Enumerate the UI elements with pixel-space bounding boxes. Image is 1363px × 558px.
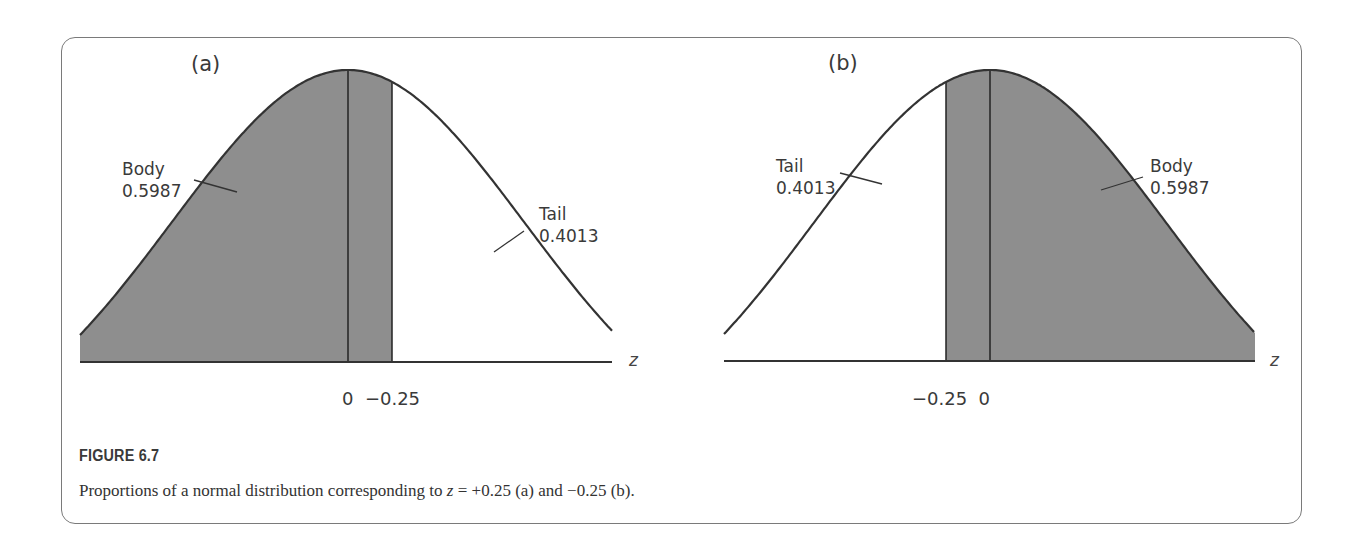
tail-label: Tail: [775, 156, 803, 176]
tail-value: 0.4013: [539, 226, 598, 246]
tick-labels: −0.25 0: [912, 388, 990, 409]
tail-value: 0.4013: [776, 178, 835, 198]
caption-prefix: Proportions of a normal distribution cor…: [79, 481, 447, 500]
axis-var-label: z: [628, 350, 639, 370]
body-shaded-area: [946, 70, 1255, 361]
body-value: 0.5987: [1150, 178, 1209, 198]
body-label: Body: [1150, 156, 1193, 176]
figure-caption: Proportions of a normal distribution cor…: [79, 481, 635, 501]
tick-labels: 0 −0.25: [342, 388, 420, 409]
panel-label: (a): [191, 52, 220, 76]
panel-b: z (b) Tail 0.4013 Body 0.5987 −0.25 0: [724, 51, 1280, 409]
normal-distribution-figure: z (a) Body 0.5987 Tail 0.4013 0 −0.25 z …: [0, 0, 1363, 558]
caption-suffix: = +0.25 (a) and −0.25 (b).: [453, 481, 634, 500]
body-value: 0.5987: [122, 181, 181, 201]
tail-leader-line: [494, 231, 524, 252]
tail-label: Tail: [538, 204, 566, 224]
panel-a: z (a) Body 0.5987 Tail 0.4013 0 −0.25: [80, 52, 639, 409]
figure-title: FIGURE 6.7: [79, 447, 159, 465]
body-label: Body: [122, 159, 165, 179]
axis-var-label: z: [1269, 350, 1280, 370]
panel-label: (b): [828, 51, 858, 75]
body-shaded-area: [80, 70, 392, 362]
